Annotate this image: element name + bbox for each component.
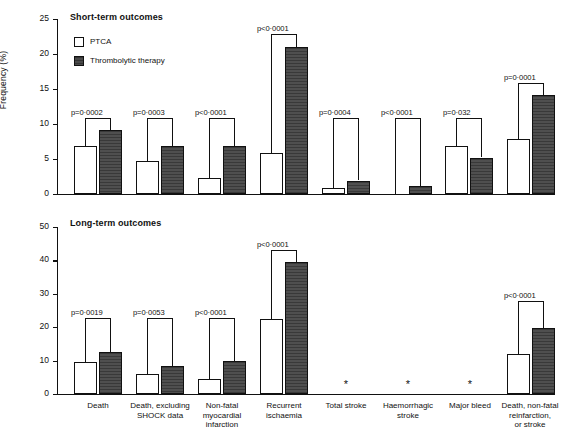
p-value-top-death: p=0·0002 [71,108,103,117]
x-axis-label-death-excl-shock: Death, excludingSHOCK data [128,401,192,420]
y-ticklabel-50-bottom: 50 [16,222,49,231]
x-axis-label-nonfatal-mi: Non-fatalmyocardialinfarction [192,401,252,430]
y-ticklabel-20-bottom: 20 [16,322,49,331]
bar-top-ptca-composite [507,139,530,194]
p-value-bottom-death: p=0·0019 [71,308,103,317]
bar-top-thrombolytic-death [99,130,122,194]
p-value-top-death-excl-shock: p=0·0003 [133,108,165,117]
y-ticklabel-15-top: 15 [16,84,49,93]
p-value-bottom-recurrent-ischaemia: p<0·0001 [257,240,289,249]
x-axis-line-bottom [57,394,555,395]
x-axis-label-death: Death [68,401,128,411]
p-value-bottom-composite: p<0·0001 [504,291,536,300]
y-tick-20-top [53,54,57,55]
y-ticklabel-10-bottom: 10 [16,356,49,365]
figure-caption [0,430,556,444]
bar-bottom-thrombolytic-death [99,352,122,394]
bar-bottom-ptca-death-excl-shock [136,374,159,394]
y-tick-50-bottom [53,227,57,228]
bar-bottom-thrombolytic-nonfatal-mi [223,361,246,394]
y-ticklabel-40-bottom: 40 [16,255,49,264]
x-axis-label-haemorrhagic-stroke: Haemorrhagicstroke [378,401,438,420]
bar-bottom-ptca-death [74,362,97,394]
panel-title-long-term: Long-term outcomes [70,218,161,228]
no-data-marker-haemorrhagic-stroke: * [384,381,432,387]
x-axis-label-composite: Death, non-fatalreinfarction,or stroke [498,401,562,430]
bar-top-thrombolytic-composite [532,95,555,194]
bar-top-thrombolytic-nonfatal-mi [223,146,246,194]
y-tick-15-top [53,89,57,90]
p-value-top-major-bleed: p=0·032 [443,108,470,117]
x-axis-line-top [57,194,555,195]
y-tick-0-bottom [53,394,57,395]
bar-top-thrombolytic-total-stroke [347,181,370,194]
y-ticklabel-0-top: 0 [16,189,49,198]
bar-top-ptca-recurrent-ischaemia [260,153,283,194]
bar-top-thrombolytic-haemorrhagic-stroke [409,186,432,194]
y-ticklabel-25-top: 25 [16,14,49,23]
legend-label-thrombolytic: Thrombolytic therapy [90,56,165,65]
bar-bottom-thrombolytic-composite [532,328,555,394]
x-axis-label-total-stroke: Total stroke [316,401,376,411]
p-value-top-total-stroke: p=0·0004 [319,108,351,117]
y-ticklabel-5-top: 5 [16,154,49,163]
bar-top-thrombolytic-major-bleed [470,158,493,194]
y-tick-10-bottom [53,361,57,362]
y-tick-25-top [53,19,57,20]
p-value-top-recurrent-ischaemia: p<0·0001 [257,24,289,33]
panel-long-term-outcomes: Long-term outcomes 0 10 20 30 40 50 p=0·… [0,205,556,420]
y-tick-20-bottom [53,327,57,328]
bar-top-ptca-death-excl-shock [136,161,159,194]
bar-top-ptca-nonfatal-mi [198,178,221,194]
y-tick-10-top [53,124,57,125]
bar-top-ptca-total-stroke [322,188,345,194]
bar-bottom-ptca-recurrent-ischaemia [260,319,283,394]
y-axis-line-top [57,19,58,195]
no-data-marker-total-stroke: * [322,381,370,387]
panel-title-short-term: Short-term outcomes [70,12,163,22]
legend-label-ptca: PTCA [90,37,111,46]
bar-bottom-ptca-composite [507,354,530,394]
y-tick-0-top [53,194,57,195]
y-ticklabel-20-top: 20 [16,49,49,58]
bar-top-thrombolytic-death-excl-shock [161,146,184,194]
no-data-marker-major-bleed: * [446,381,494,387]
p-value-top-composite: p=0·0001 [504,73,536,82]
p-value-top-nonfatal-mi: p<0·0001 [195,108,227,117]
x-axis-label-major-bleed: Major bleed [440,401,500,411]
p-value-bottom-nonfatal-mi: p<0·0001 [195,308,227,317]
y-ticklabel-10-top: 10 [16,119,49,128]
bar-top-ptca-major-bleed [445,146,468,194]
bar-bottom-thrombolytic-death-excl-shock [161,366,184,394]
y-tick-5-top [53,159,57,160]
bar-bottom-thrombolytic-recurrent-ischaemia [285,262,308,394]
bar-bottom-ptca-nonfatal-mi [198,379,221,394]
bar-top-thrombolytic-recurrent-ischaemia [285,47,308,194]
bar-top-ptca-death [74,146,97,194]
x-axis-label-recurrent-ischaemia: Recurrentischaemia [254,401,314,420]
y-axis-line-bottom [57,227,58,395]
p-value-bottom-death-excl-shock: p=0·0053 [133,308,165,317]
panel-short-term-outcomes: Short-term outcomes PTCA Thrombolytic th… [0,0,556,205]
y-tick-30-bottom [53,294,57,295]
y-ticklabel-30-bottom: 30 [16,289,49,298]
open-square-icon [74,37,84,47]
y-ticklabel-0-bottom: 0 [16,389,49,398]
y-tick-40-bottom [53,260,57,261]
p-value-top-haemorrhagic-stroke: p<0·0001 [381,108,413,117]
filled-square-icon [74,56,84,66]
